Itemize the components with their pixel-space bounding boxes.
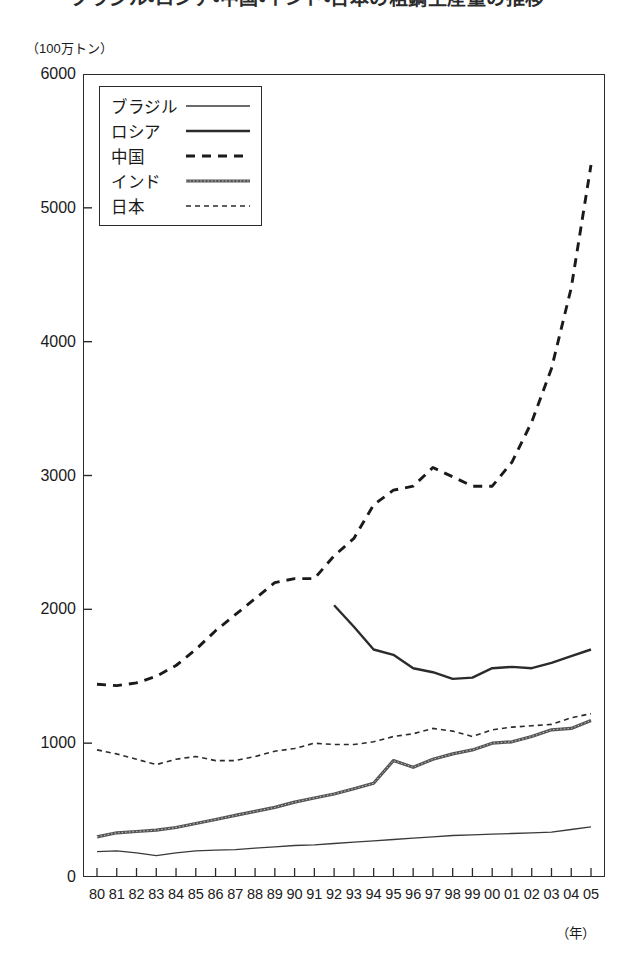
legend-label: ロシア [111, 119, 185, 143]
x-tick-label: 00 [484, 886, 500, 902]
x-tick-label: 03 [543, 886, 559, 902]
line-chart: 0100020003000400050006000 80818283848586… [0, 0, 640, 974]
x-tick-label: 98 [445, 886, 461, 902]
legend-label: インド [111, 169, 185, 193]
x-tick-label: 81 [109, 886, 125, 902]
x-tick-label: 94 [366, 886, 382, 902]
legend-swatch-thick-solid [185, 125, 252, 137]
x-tick-label: 90 [287, 886, 303, 902]
x-tick-label: 91 [306, 886, 322, 902]
legend-label: ブラジル [111, 94, 185, 118]
x-tick-label: 88 [247, 886, 263, 902]
x-tick-label: 96 [405, 886, 421, 902]
x-tick-label: 93 [346, 886, 362, 902]
legend: ブラジルロシア中国インド日本 [99, 86, 262, 226]
x-tick-label: 04 [563, 886, 579, 902]
x-tick-label: 82 [128, 886, 144, 902]
x-tick-label: 05 [583, 886, 599, 902]
x-tick-label: 95 [385, 886, 401, 902]
x-tick-label: 02 [524, 886, 540, 902]
x-tick-label: 92 [326, 886, 342, 902]
x-tick-label: 89 [267, 886, 283, 902]
legend-label: 日本 [111, 194, 185, 218]
legend-swatch-fine-dotted [185, 200, 252, 212]
x-tick-label: 99 [464, 886, 480, 902]
legend-item-0: ブラジル [100, 93, 261, 118]
x-axis-unit-label: （年） [556, 922, 595, 942]
x-axis-labels: 8081828384858687888990919293949596979899… [0, 0, 640, 974]
legend-swatch-thick-dashed [185, 150, 252, 162]
x-tick-label: 80 [89, 886, 105, 902]
x-tick-label: 85 [188, 886, 204, 902]
legend-item-3: インド [100, 168, 261, 193]
x-tick-label: 86 [207, 886, 223, 902]
x-tick-label: 01 [504, 886, 520, 902]
x-tick-label: 83 [148, 886, 164, 902]
x-tick-label: 84 [168, 886, 184, 902]
legend-swatch-thin-solid [185, 100, 252, 112]
legend-swatch-textured [185, 175, 252, 187]
legend-item-4: 日本 [100, 193, 261, 218]
x-tick-label: 97 [425, 886, 441, 902]
legend-item-2: 中国 [100, 143, 261, 168]
legend-item-1: ロシア [100, 118, 261, 143]
legend-label: 中国 [111, 144, 185, 168]
x-tick-label: 87 [227, 886, 243, 902]
